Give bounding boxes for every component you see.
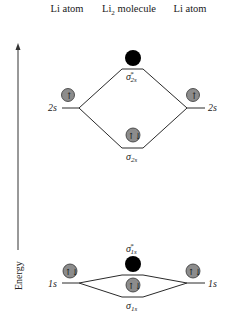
- arrow-up-icon: [16, 43, 21, 50]
- sigma-star-1s-orbital-icon: [125, 256, 141, 272]
- spin-pair-arrows-icon: ↑↓: [65, 267, 79, 277]
- sigma-2s-label: σ2s: [126, 151, 137, 164]
- spin-pair-arrows-icon: ↑↓: [188, 267, 202, 277]
- sigma-1s-label: σ1s: [126, 300, 137, 313]
- energy-label: Energy: [13, 261, 24, 290]
- right-1s-label: 1s: [208, 278, 217, 289]
- sigma-star-2s-orbital-icon: [125, 50, 141, 66]
- spin-pair-arrows-icon: ↑↓: [128, 281, 142, 291]
- mo-diagram: Energy σ*2s ↑ 2s ↑ 2s ↑↓ σ2s σ*1s ↑↓: [0, 0, 236, 324]
- spin-pair-arrows-icon: ↑↓: [128, 131, 142, 141]
- sigma-star-1s-label: σ*1s: [126, 242, 137, 256]
- spin-up-arrow-icon: ↑: [191, 91, 199, 101]
- sigma-star-2s-label: σ*2s: [126, 70, 137, 84]
- right-2s-label: 2s: [208, 102, 217, 113]
- spin-up-arrow-icon: ↑: [66, 91, 74, 101]
- left-1s-label: 1s: [48, 278, 57, 289]
- energy-axis: Energy: [13, 43, 24, 290]
- left-2s-label: 2s: [48, 102, 57, 113]
